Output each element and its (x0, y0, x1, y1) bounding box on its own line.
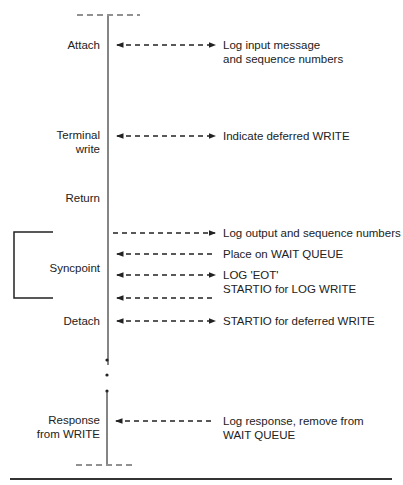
event-label: Response (37, 413, 100, 427)
syncpoint-bracket (14, 232, 53, 298)
action-text: Log input message (223, 38, 343, 52)
action-text: LOG 'EOT' (223, 268, 356, 282)
action-log-output: Log output and sequence numbers (223, 226, 401, 240)
continuation-dot (105, 373, 108, 376)
action-indicate-deferred: Indicate deferred WRITE (223, 129, 350, 143)
continuation-dot (105, 358, 108, 361)
event-label: write (57, 142, 100, 156)
event-terminal-write: Terminal write (57, 128, 100, 156)
event-attach: Attach (67, 38, 100, 52)
action-text: Place on WAIT QUEUE (223, 247, 343, 261)
event-label: from WRITE (37, 427, 100, 441)
event-return: Return (65, 191, 100, 205)
action-text: Log output and sequence numbers (223, 226, 401, 240)
action-text: WAIT QUEUE (223, 428, 364, 442)
syncpoint-timeline-diagram: Attach Terminal write Return Syncpoint D… (0, 0, 403, 485)
action-log-input: Log input message and sequence numbers (223, 38, 343, 66)
action-place-wait-queue: Place on WAIT QUEUE (223, 247, 343, 261)
event-label: Return (65, 191, 100, 205)
action-log-response: Log response, remove from WAIT QUEUE (223, 414, 364, 442)
action-startio-deferred: STARTIO for deferred WRITE (223, 314, 375, 328)
action-text: Log response, remove from (223, 414, 364, 428)
event-label: Detach (64, 314, 100, 328)
event-label: Attach (67, 38, 100, 52)
event-label: Syncpoint (49, 261, 100, 275)
action-text: Indicate deferred WRITE (223, 129, 350, 143)
event-syncpoint: Syncpoint (49, 261, 100, 275)
action-text: STARTIO for deferred WRITE (223, 314, 375, 328)
action-text: STARTIO for LOG WRITE (223, 282, 356, 296)
action-text: and sequence numbers (223, 52, 343, 66)
action-log-eot: LOG 'EOT' STARTIO for LOG WRITE (223, 268, 356, 296)
event-detach: Detach (64, 314, 100, 328)
event-label: Terminal (57, 128, 100, 142)
event-response-from-write: Response from WRITE (37, 413, 100, 441)
